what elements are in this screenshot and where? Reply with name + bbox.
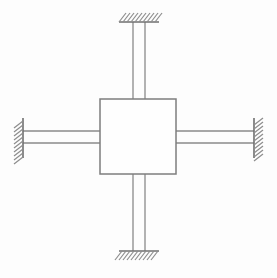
support-right-hatching <box>254 118 263 161</box>
support-right <box>254 118 263 161</box>
support-left-hatching <box>14 121 23 164</box>
support-bottom-hatching <box>115 251 158 260</box>
diagram-canvas <box>0 0 277 278</box>
structural-diagram <box>0 0 277 278</box>
support-bottom <box>115 251 159 260</box>
right-beam <box>175 131 254 143</box>
support-top <box>119 13 162 22</box>
central-mass-block <box>100 99 176 174</box>
left-beam <box>23 131 101 143</box>
support-top-hatching <box>119 13 162 22</box>
support-left <box>14 118 23 164</box>
top-beam <box>133 22 145 100</box>
bottom-beam <box>133 173 145 251</box>
